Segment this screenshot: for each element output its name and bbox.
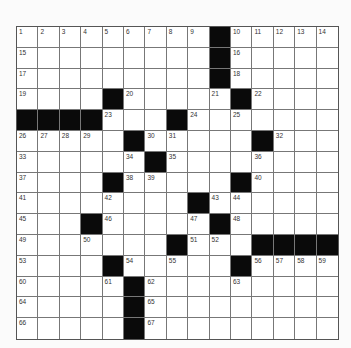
grid-cell[interactable] xyxy=(295,69,316,90)
grid-cell[interactable] xyxy=(60,318,81,339)
grid-cell[interactable]: 63 xyxy=(231,277,252,298)
grid-cell[interactable] xyxy=(167,69,188,90)
grid-cell[interactable]: 35 xyxy=(167,152,188,173)
grid-cell[interactable] xyxy=(295,193,316,214)
grid-cell[interactable]: 13 xyxy=(295,27,316,48)
grid-cell[interactable] xyxy=(188,48,209,69)
grid-cell[interactable] xyxy=(317,69,338,90)
grid-cell[interactable]: 65 xyxy=(145,297,166,318)
grid-cell[interactable] xyxy=(252,193,273,214)
grid-cell[interactable] xyxy=(60,152,81,173)
grid-cell[interactable] xyxy=(210,297,231,318)
grid-cell[interactable] xyxy=(188,318,209,339)
grid-cell[interactable] xyxy=(60,193,81,214)
grid-cell[interactable] xyxy=(252,277,273,298)
grid-cell[interactable] xyxy=(38,214,59,235)
grid-cell[interactable]: 41 xyxy=(17,193,38,214)
grid-cell[interactable]: 33 xyxy=(17,152,38,173)
grid-cell[interactable] xyxy=(167,173,188,194)
grid-cell[interactable]: 37 xyxy=(17,173,38,194)
grid-cell[interactable]: 53 xyxy=(17,256,38,277)
grid-cell[interactable] xyxy=(124,48,145,69)
grid-cell[interactable] xyxy=(81,48,102,69)
grid-cell[interactable]: 49 xyxy=(17,235,38,256)
grid-cell[interactable] xyxy=(60,297,81,318)
grid-cell[interactable] xyxy=(124,110,145,131)
grid-cell[interactable]: 67 xyxy=(145,318,166,339)
grid-cell[interactable] xyxy=(103,69,124,90)
grid-cell[interactable]: 62 xyxy=(145,277,166,298)
grid-cell[interactable]: 18 xyxy=(231,69,252,90)
grid-cell[interactable]: 2 xyxy=(38,27,59,48)
grid-cell[interactable]: 31 xyxy=(167,131,188,152)
grid-cell[interactable]: 48 xyxy=(231,214,252,235)
grid-cell[interactable] xyxy=(295,173,316,194)
grid-cell[interactable]: 15 xyxy=(17,48,38,69)
grid-cell[interactable]: 22 xyxy=(252,89,273,110)
grid-cell[interactable] xyxy=(188,131,209,152)
grid-cell[interactable] xyxy=(145,235,166,256)
grid-cell[interactable] xyxy=(38,297,59,318)
grid-cell[interactable] xyxy=(274,318,295,339)
grid-cell[interactable]: 14 xyxy=(317,27,338,48)
grid-cell[interactable]: 5 xyxy=(103,27,124,48)
grid-cell[interactable] xyxy=(231,152,252,173)
grid-cell[interactable] xyxy=(210,131,231,152)
grid-cell[interactable] xyxy=(210,152,231,173)
grid-cell[interactable] xyxy=(188,277,209,298)
grid-cell[interactable] xyxy=(38,256,59,277)
grid-cell[interactable] xyxy=(124,214,145,235)
grid-cell[interactable] xyxy=(103,48,124,69)
grid-cell[interactable] xyxy=(38,277,59,298)
grid-cell[interactable]: 44 xyxy=(231,193,252,214)
grid-cell[interactable] xyxy=(60,89,81,110)
grid-cell[interactable] xyxy=(167,297,188,318)
grid-cell[interactable] xyxy=(231,131,252,152)
grid-cell[interactable]: 1 xyxy=(17,27,38,48)
grid-cell[interactable]: 40 xyxy=(252,173,273,194)
grid-cell[interactable]: 66 xyxy=(17,318,38,339)
grid-cell[interactable] xyxy=(167,318,188,339)
grid-cell[interactable] xyxy=(274,48,295,69)
grid-cell[interactable] xyxy=(124,235,145,256)
grid-cell[interactable] xyxy=(295,318,316,339)
grid-cell[interactable] xyxy=(38,193,59,214)
grid-cell[interactable] xyxy=(60,48,81,69)
grid-cell[interactable] xyxy=(103,235,124,256)
grid-cell[interactable]: 11 xyxy=(252,27,273,48)
grid-cell[interactable] xyxy=(295,131,316,152)
grid-cell[interactable] xyxy=(167,48,188,69)
grid-cell[interactable] xyxy=(145,48,166,69)
grid-cell[interactable]: 19 xyxy=(17,89,38,110)
grid-cell[interactable] xyxy=(317,110,338,131)
grid-cell[interactable] xyxy=(81,193,102,214)
grid-cell[interactable]: 20 xyxy=(124,89,145,110)
grid-cell[interactable] xyxy=(210,256,231,277)
grid-cell[interactable] xyxy=(317,173,338,194)
grid-cell[interactable] xyxy=(81,318,102,339)
grid-cell[interactable] xyxy=(274,277,295,298)
grid-cell[interactable]: 50 xyxy=(81,235,102,256)
grid-cell[interactable] xyxy=(274,297,295,318)
grid-cell[interactable]: 52 xyxy=(210,235,231,256)
grid-cell[interactable] xyxy=(210,318,231,339)
grid-cell[interactable]: 6 xyxy=(124,27,145,48)
grid-cell[interactable] xyxy=(274,69,295,90)
grid-cell[interactable] xyxy=(60,277,81,298)
grid-cell[interactable] xyxy=(317,297,338,318)
grid-cell[interactable] xyxy=(38,318,59,339)
grid-cell[interactable] xyxy=(252,69,273,90)
grid-cell[interactable] xyxy=(81,277,102,298)
grid-cell[interactable] xyxy=(252,297,273,318)
grid-cell[interactable] xyxy=(317,89,338,110)
grid-cell[interactable] xyxy=(81,69,102,90)
grid-cell[interactable]: 60 xyxy=(17,277,38,298)
grid-cell[interactable] xyxy=(231,235,252,256)
grid-cell[interactable] xyxy=(103,318,124,339)
grid-cell[interactable] xyxy=(317,277,338,298)
grid-cell[interactable] xyxy=(145,89,166,110)
grid-cell[interactable]: 29 xyxy=(81,131,102,152)
grid-cell[interactable]: 23 xyxy=(103,110,124,131)
grid-cell[interactable] xyxy=(317,131,338,152)
grid-cell[interactable] xyxy=(145,214,166,235)
